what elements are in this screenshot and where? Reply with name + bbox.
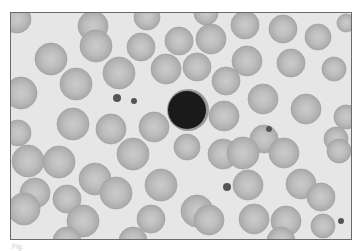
red-blood-cell <box>151 54 181 84</box>
red-blood-cell <box>174 134 200 160</box>
red-blood-cell <box>239 204 269 234</box>
platelet <box>223 183 231 191</box>
red-blood-cell <box>305 24 331 50</box>
red-blood-cell <box>80 30 112 62</box>
red-blood-cell <box>322 57 346 81</box>
blood-smear-image <box>11 13 352 240</box>
red-blood-cell <box>57 108 89 140</box>
red-blood-cell <box>311 214 335 238</box>
red-blood-cell <box>35 43 67 75</box>
red-blood-cell <box>227 137 259 169</box>
red-blood-cell <box>233 170 263 200</box>
red-blood-cell <box>127 33 155 61</box>
red-blood-cell <box>137 205 165 233</box>
figure-caption: Fig. <box>12 243 24 250</box>
platelet <box>266 126 272 132</box>
red-blood-cell <box>307 183 335 211</box>
red-blood-cell <box>269 15 297 43</box>
red-blood-cell <box>212 67 240 95</box>
red-blood-cell <box>100 177 132 209</box>
red-blood-cell <box>248 84 278 114</box>
red-blood-cell <box>145 169 177 201</box>
red-blood-cell <box>11 193 40 225</box>
red-blood-cell <box>139 112 169 142</box>
platelet <box>338 218 344 224</box>
red-blood-cell <box>231 13 259 39</box>
red-blood-cell <box>277 49 305 77</box>
platelet <box>113 94 121 102</box>
red-blood-cell <box>103 57 135 89</box>
micrograph-frame <box>10 12 352 240</box>
lymphocyte <box>167 89 209 131</box>
red-blood-cell <box>194 205 224 235</box>
red-blood-cell <box>196 24 226 54</box>
red-blood-cell <box>291 94 321 124</box>
red-blood-cell <box>209 101 239 131</box>
red-blood-cell <box>12 145 44 177</box>
platelet <box>131 98 137 104</box>
red-blood-cell <box>165 27 193 55</box>
red-blood-cell <box>96 114 126 144</box>
red-blood-cell <box>337 14 352 32</box>
red-blood-cell <box>183 53 211 81</box>
red-blood-cell <box>327 139 351 163</box>
red-blood-cell <box>60 68 92 100</box>
red-blood-cell <box>43 146 75 178</box>
red-blood-cell <box>117 138 149 170</box>
red-blood-cell <box>269 138 299 168</box>
